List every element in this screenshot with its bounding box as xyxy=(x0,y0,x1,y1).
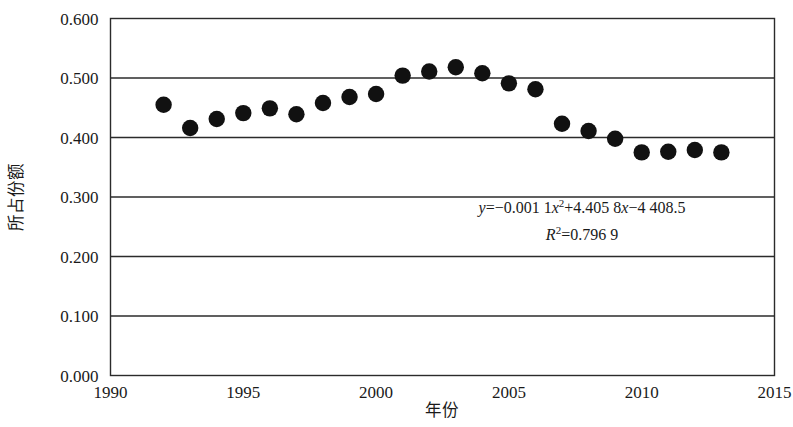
equation-x-var1: x xyxy=(551,199,559,216)
r-squared-var: R xyxy=(545,226,556,243)
data-point xyxy=(368,86,384,102)
scatter-chart: 0.0000.1000.2000.3000.4000.5000.600 1990… xyxy=(0,0,793,427)
data-point xyxy=(554,116,570,132)
data-point xyxy=(182,120,198,136)
data-point xyxy=(341,89,357,105)
x-axis-tick-label: 1990 xyxy=(94,383,128,402)
y-axis-tick-label: 0.300 xyxy=(60,188,98,207)
data-point xyxy=(209,111,225,127)
y-axis-tick-label: 0.400 xyxy=(60,129,98,148)
y-axis-tick-label: 0.200 xyxy=(60,248,98,267)
data-point xyxy=(474,65,490,81)
data-point xyxy=(235,105,251,121)
equation-term3: −4 408.5 xyxy=(628,199,685,216)
data-point xyxy=(421,63,437,79)
equation-term1: −0.001 1 xyxy=(495,199,552,216)
data-point xyxy=(448,59,464,75)
y-axis-tick-label: 0.500 xyxy=(60,69,98,88)
chart-figure: 0.0000.1000.2000.3000.4000.5000.600 1990… xyxy=(0,0,793,427)
x-axis-tick-label: 2015 xyxy=(758,383,792,402)
data-point xyxy=(315,95,331,111)
data-point-markers xyxy=(155,59,729,160)
data-point xyxy=(288,106,304,122)
data-point xyxy=(262,100,278,116)
equation-term2: +4.405 8 xyxy=(564,199,621,216)
y-axis-tick-label: 0.600 xyxy=(60,10,98,29)
data-point xyxy=(527,81,543,97)
x-axis-tick-labels: 199019952000200520102015 xyxy=(94,383,792,402)
data-point xyxy=(687,142,703,158)
y-axis-title: 所占份额 xyxy=(7,163,26,231)
x-axis-tick-label: 2010 xyxy=(625,383,659,402)
x-axis-title: 年份 xyxy=(425,401,459,420)
data-point xyxy=(501,75,517,91)
r-squared-value: =0.796 9 xyxy=(561,226,618,243)
equation-x-var2: x xyxy=(620,199,628,216)
data-point xyxy=(394,67,410,83)
trendline-equation-label: y=−0.001 1x2+4.405 8x−4 408.5 xyxy=(477,197,686,217)
x-axis-tick-label: 2000 xyxy=(359,383,393,402)
data-point xyxy=(580,123,596,139)
y-axis-tick-labels: 0.0000.1000.2000.3000.4000.5000.600 xyxy=(60,10,98,386)
data-point xyxy=(660,144,676,160)
equation-sign: = xyxy=(486,199,495,216)
data-point xyxy=(634,144,650,160)
r-squared-label: R2=0.796 9 xyxy=(545,224,618,243)
x-axis-tick-label: 2005 xyxy=(492,383,526,402)
x-axis-tick-label: 1995 xyxy=(226,383,260,402)
data-point xyxy=(155,97,171,113)
gridlines xyxy=(111,78,775,316)
data-point xyxy=(713,144,729,160)
data-point xyxy=(607,130,623,146)
y-axis-tick-label: 0.100 xyxy=(60,307,98,326)
